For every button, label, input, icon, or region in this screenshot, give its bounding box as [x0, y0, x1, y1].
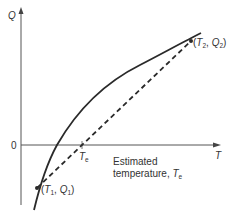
annotation-line1: Estimated — [113, 157, 157, 167]
point-t2-q2-label: (T2, Q2) — [193, 38, 226, 50]
y-axis-label: Q — [8, 11, 16, 21]
te-intercept-label: Te — [79, 152, 89, 164]
x-axis-arrow-icon — [213, 143, 221, 148]
y-axis-arrow-icon — [19, 7, 24, 14]
x-axis-label: T — [215, 151, 221, 161]
origin-label: 0 — [11, 141, 17, 151]
point-t1-q1 — [35, 186, 39, 190]
point-t1-q1-label: (T1, Q1) — [41, 185, 74, 197]
annotation-line2: temperature, Te — [113, 169, 182, 181]
